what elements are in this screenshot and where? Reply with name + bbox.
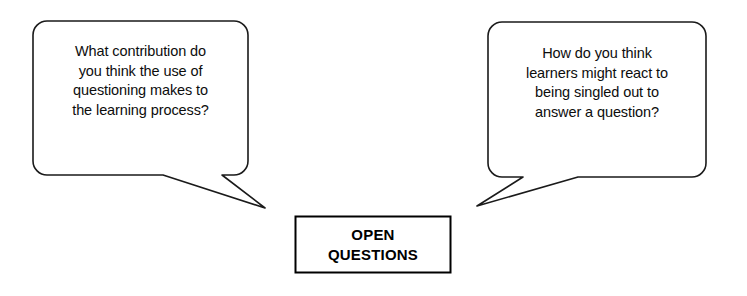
right-callout-text: How do you think learners might react to… — [492, 44, 702, 122]
left-callout-text: What contribution do you think the use o… — [37, 42, 244, 120]
center-node-label: OPEN QUESTIONS — [296, 225, 450, 265]
diagram-canvas: What contribution do you think the use o… — [0, 0, 747, 296]
